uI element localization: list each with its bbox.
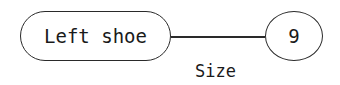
edge-label: Size [195,61,236,81]
entity-node-label: Left shoe [44,25,147,47]
entity-node: Left shoe [20,11,171,61]
value-node-label: 9 [288,25,299,47]
attribute-edge [171,36,265,38]
value-node: 9 [265,11,323,61]
